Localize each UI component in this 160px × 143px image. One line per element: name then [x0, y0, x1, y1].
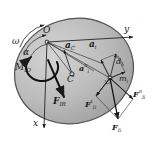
force-FIi-normal-label: FnIi: [133, 90, 145, 99]
point-mi-label: mi: [119, 75, 128, 83]
FIR-sub: IR: [59, 101, 65, 107]
angular-velocity-label: ω: [12, 37, 19, 46]
force-FIi-tangential-label: FtIi: [85, 100, 96, 109]
y-axis-label: y: [124, 25, 129, 34]
aC-sub: C: [71, 45, 75, 51]
angular-acceleration-label: α: [23, 48, 29, 57]
x-axis-label: x: [33, 119, 38, 128]
inertia-moment-base: M: [15, 62, 24, 72]
acceleration-ai-normal-label: ani: [79, 64, 89, 73]
figure-canvas: ω α O MIO y x aC C ai ani di mi FIR FtIi…: [0, 0, 160, 143]
mi-sub: i: [127, 78, 129, 84]
acceleration-aC-label: aC: [65, 41, 75, 50]
inertia-moment-label: MIO: [15, 63, 31, 72]
ain-sub: i: [87, 68, 89, 74]
force-FIR-label: FIR: [53, 97, 66, 106]
ai-base: a: [89, 39, 95, 49]
point-O-label: O: [43, 26, 50, 35]
acceleration-ai-label: ai: [89, 40, 97, 49]
mi-base: m: [119, 74, 127, 83]
point-C-label: C: [67, 75, 74, 84]
distance-di-label: di: [116, 58, 123, 66]
ai-sub: i: [95, 44, 97, 50]
aC-base: a: [65, 40, 71, 50]
force-FIi-label: FIi: [112, 123, 121, 132]
FIin-sub: Ii: [142, 94, 146, 100]
FIi-sub: Ii: [118, 127, 122, 133]
FIit-sub: Ii: [93, 104, 97, 110]
di-sub: i: [121, 61, 123, 67]
inertia-moment-sub: IO: [24, 67, 31, 73]
FIi-base: F: [112, 122, 118, 132]
